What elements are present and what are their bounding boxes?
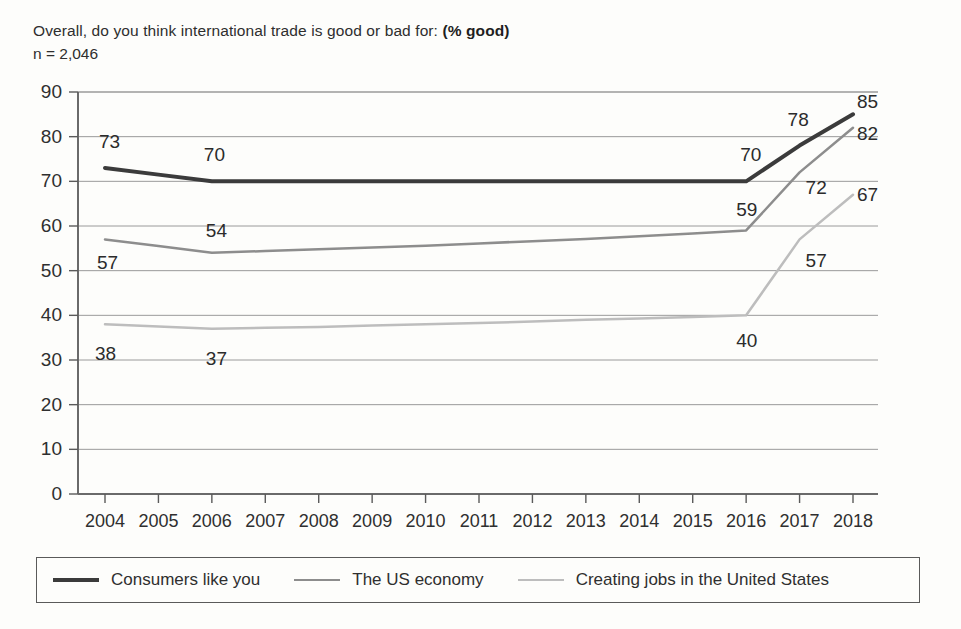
legend-line-icon xyxy=(518,579,564,581)
data-point-label: 40 xyxy=(736,331,757,350)
y-axis-tick-label: 20 xyxy=(22,395,62,414)
legend-line-icon xyxy=(53,578,99,582)
y-axis-tick-label: 30 xyxy=(22,350,62,369)
legend-item[interactable]: Consumers like you xyxy=(53,570,260,590)
data-point-label: 78 xyxy=(788,110,809,129)
x-axis-tick-label: 2013 xyxy=(556,512,616,530)
y-axis-tick-label: 60 xyxy=(22,216,62,235)
x-axis-tick-label: 2015 xyxy=(663,512,723,530)
legend-line-icon xyxy=(294,579,340,581)
chart-legend: Consumers like youThe US economyCreating… xyxy=(36,557,920,603)
legend-items: Consumers like youThe US economyCreating… xyxy=(37,558,919,602)
x-axis-tick-label: 2009 xyxy=(342,512,402,530)
x-axis-tick-label: 2004 xyxy=(75,512,135,530)
data-point-label: 54 xyxy=(206,221,227,240)
x-axis-tick-label: 2008 xyxy=(289,512,349,530)
x-axis-tick-label: 2014 xyxy=(609,512,669,530)
data-point-label: 38 xyxy=(95,344,116,363)
y-axis-tick-label: 40 xyxy=(22,305,62,324)
y-axis-tick-label: 90 xyxy=(22,82,62,101)
y-axis-tick-label: 0 xyxy=(22,484,62,503)
legend-item[interactable]: The US economy xyxy=(294,570,483,590)
data-point-label: 37 xyxy=(206,349,227,368)
data-point-label: 70 xyxy=(204,145,225,164)
data-point-label: 73 xyxy=(99,132,120,151)
x-axis-tick-label: 2012 xyxy=(502,512,562,530)
data-point-label: 57 xyxy=(97,253,118,272)
x-axis-tick-label: 2016 xyxy=(716,512,776,530)
x-axis-tick-label: 2007 xyxy=(235,512,295,530)
legend-item-label: Creating jobs in the United States xyxy=(576,570,829,590)
x-axis-tick-label: 2005 xyxy=(128,512,188,530)
x-axis-tick-label: 2010 xyxy=(396,512,456,530)
data-point-label: 82 xyxy=(857,124,878,143)
data-point-label: 59 xyxy=(736,200,757,219)
x-axis-tick-label: 2006 xyxy=(182,512,242,530)
y-axis-tick-label: 10 xyxy=(22,439,62,458)
y-axis-tick-label: 70 xyxy=(22,171,62,190)
legend-item-label: The US economy xyxy=(352,570,483,590)
chart-plot-area: 0102030405060708090 20042005200620072008… xyxy=(0,0,961,545)
y-axis-tick-label: 50 xyxy=(22,261,62,280)
axis-ticks xyxy=(69,92,853,503)
x-axis-tick-label: 2017 xyxy=(770,512,830,530)
data-point-label: 85 xyxy=(857,92,878,111)
x-axis-tick-label: 2018 xyxy=(823,512,883,530)
chart-page: Overall, do you think international trad… xyxy=(0,0,961,629)
data-point-label: 67 xyxy=(857,185,878,204)
line-chart-svg xyxy=(0,0,961,545)
data-point-label: 72 xyxy=(806,178,827,197)
y-axis-tick-label: 80 xyxy=(22,127,62,146)
legend-item-label: Consumers like you xyxy=(111,570,260,590)
data-point-label: 70 xyxy=(740,145,761,164)
legend-item[interactable]: Creating jobs in the United States xyxy=(518,570,829,590)
data-point-label: 57 xyxy=(806,251,827,270)
x-axis-tick-label: 2011 xyxy=(449,512,509,530)
